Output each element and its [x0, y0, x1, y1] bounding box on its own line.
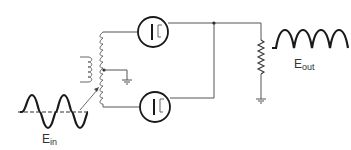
- input-arrow: [80, 87, 99, 110]
- center-tap-ground: [102, 68, 132, 84]
- input-label-main: E: [42, 132, 50, 146]
- input-waveform: [18, 95, 90, 128]
- output-label-main: E: [294, 57, 302, 71]
- output-label: Eout: [294, 58, 315, 72]
- rectifier-circuit-diagram: [0, 0, 351, 150]
- input-label: Ein: [42, 133, 57, 147]
- output-label-sub: out: [302, 62, 315, 72]
- output-waveform: [272, 30, 348, 48]
- bottom-diode-tube-icon: [140, 92, 214, 122]
- load-resistor-icon: [256, 23, 266, 103]
- cathode-junction: [212, 21, 261, 98]
- input-label-sub: in: [50, 137, 57, 147]
- top-diode-tube-icon: [138, 17, 214, 47]
- transformer-primary-icon: [80, 57, 92, 82]
